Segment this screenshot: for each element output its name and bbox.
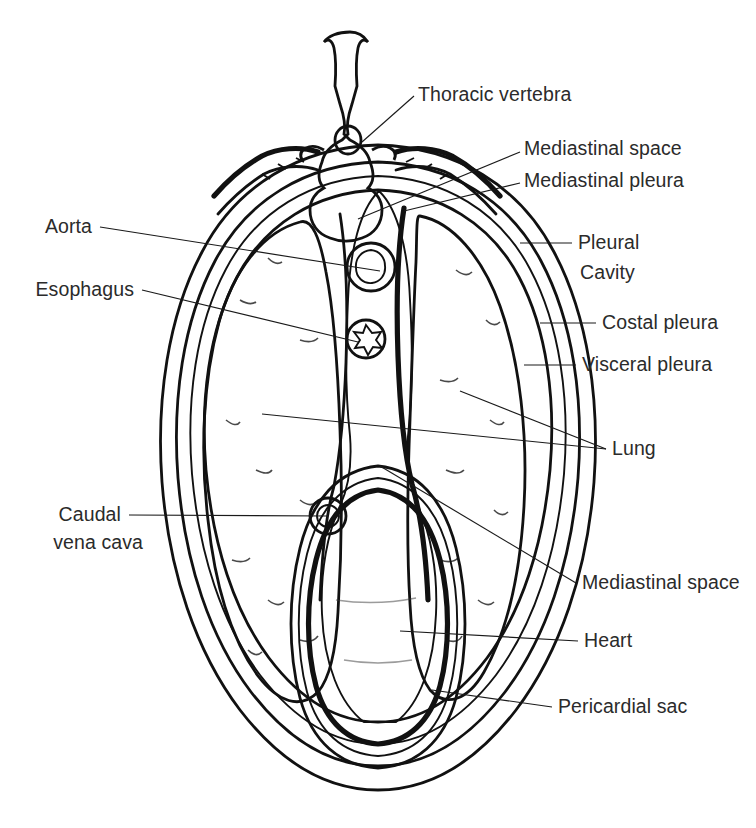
thorax-cross-section-svg: Thoracic vertebra Mediastinal space Medi… [0, 0, 756, 828]
label-costal-pleura: Costal pleura [602, 311, 718, 333]
label-thoracic-vertebra: Thoracic vertebra [418, 83, 571, 105]
label-mediastinal-space-lower: Mediastinal space [582, 571, 740, 593]
label-mediastinal-pleura: Mediastinal pleura [524, 169, 684, 191]
label-aorta: Aorta [45, 215, 92, 237]
label-lung: Lung [612, 437, 656, 459]
label-caudal-vena-cava-line2: vena cava [53, 531, 143, 553]
label-visceral-pleura: Visceral pleura [582, 353, 712, 375]
anatomical-figure: Thoracic vertebra Mediastinal space Medi… [0, 0, 756, 828]
label-caudal-vena-cava-line1: Caudal [59, 503, 121, 525]
label-mediastinal-space-upper: Mediastinal space [524, 137, 682, 159]
label-esophagus: Esophagus [36, 278, 135, 300]
label-heart: Heart [584, 629, 633, 651]
label-pleural-cavity-line1: Pleural [578, 231, 639, 253]
label-pericardial-sac: Pericardial sac [558, 695, 688, 717]
label-pleural-cavity-line2: Cavity [580, 261, 635, 283]
